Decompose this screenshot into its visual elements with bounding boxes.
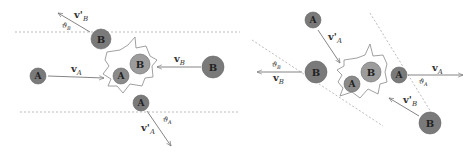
svg-text:A: A	[117, 71, 126, 81]
dashed-line-right-diagonal	[370, 13, 431, 112]
ball-B-incoming: B	[419, 112, 441, 134]
label-theta-A: ϑA	[163, 116, 172, 125]
ball-A-collision: A	[113, 68, 129, 84]
label-v-A: vA	[431, 62, 443, 76]
label-theta-B: ϑB	[62, 22, 71, 31]
ball-B-collision: B	[130, 54, 150, 74]
svg-text:A: A	[348, 79, 357, 89]
svg-text:A: A	[309, 15, 318, 25]
svg-text:B: B	[426, 118, 434, 129]
ball-A-outgoing: A	[391, 67, 407, 83]
ball-A-outgoing: A	[133, 95, 149, 111]
ball-B-collision: B	[361, 62, 381, 82]
svg-text:B: B	[209, 62, 217, 73]
svg-text:A: A	[395, 70, 404, 80]
ball-A-incoming: A	[30, 68, 46, 84]
ball-B-outgoing: B	[91, 29, 111, 49]
svg-text:A: A	[34, 71, 43, 81]
label-v-prime-A: v'A	[140, 122, 155, 136]
collision-diagram: B A A B B A v'B ϑB vA	[0, 0, 476, 156]
svg-text:B: B	[312, 67, 320, 78]
label-v-prime-B: v'B	[73, 9, 88, 23]
label-v-B: vB	[272, 72, 284, 86]
label-v-A: vA	[70, 63, 82, 77]
label-v-prime-A: v'A	[327, 31, 342, 45]
label-theta-B: ϑB	[272, 61, 281, 70]
svg-text:B: B	[97, 34, 105, 45]
ball-B-incoming: B	[202, 56, 224, 78]
svg-text:B: B	[136, 59, 144, 70]
ball-B-outgoing: B	[305, 61, 327, 83]
right-panel: A B A B A B v'A ϑB vB	[252, 12, 463, 134]
label-v-prime-B: v'B	[402, 94, 417, 108]
svg-text:B: B	[367, 67, 375, 78]
label-theta-A: ϑA	[419, 78, 428, 87]
left-panel: B A A B B A v'B ϑB vA	[15, 9, 240, 146]
ball-A-collision: A	[344, 76, 360, 92]
ball-A-incoming: A	[305, 12, 321, 28]
svg-text:A: A	[137, 98, 146, 108]
label-v-B: vB	[173, 53, 185, 67]
